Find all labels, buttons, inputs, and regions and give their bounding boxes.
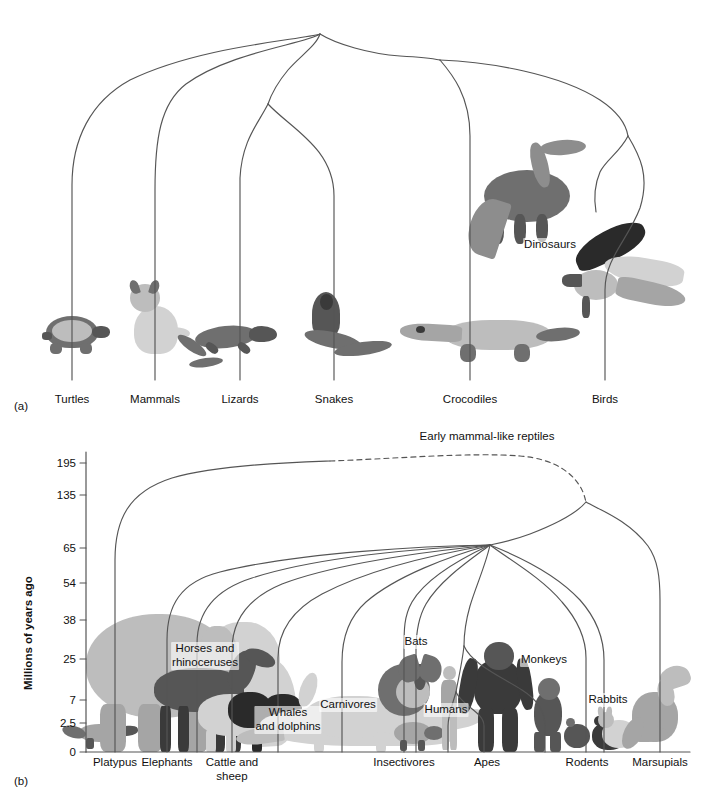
tip-label-cattle-sheep: Cattle and sheep xyxy=(206,755,258,783)
tip-label-marsupials: Marsupials xyxy=(632,755,688,769)
y-tick-label: 2.5 xyxy=(38,717,76,729)
tip-label-birds: Birds xyxy=(592,392,618,406)
branch-rabbits xyxy=(490,545,586,752)
inline-label-monkeys: Monkeys xyxy=(520,653,568,667)
branch-snakes xyxy=(268,104,334,380)
branch-turtles xyxy=(72,34,320,380)
inline-label-carnivores: Carnivores xyxy=(319,698,377,712)
branch-rodents xyxy=(490,545,604,752)
y-tick-label: 7 xyxy=(38,694,76,706)
y-tick-label: 0 xyxy=(38,746,76,758)
y-tick-label: 54 xyxy=(38,577,76,589)
branch-horses-rhinos xyxy=(197,545,490,752)
panel-tag-b: (b) xyxy=(14,775,28,787)
inline-label-humans: Humans xyxy=(424,703,469,717)
tip-label-platypus: Platypus xyxy=(93,755,137,769)
phylogeny-figure: (a) (b) Turtles Mammals Lizards Snakes C… xyxy=(0,0,701,802)
tip-label-mammals: Mammals xyxy=(130,392,180,406)
branch-primate-stem xyxy=(464,545,490,646)
branch-lizards xyxy=(240,104,268,380)
inline-label-bats: Bats xyxy=(403,635,428,649)
branch-dinosaurs xyxy=(595,136,628,212)
branch-apes xyxy=(456,692,484,752)
inline-label-whales-dolphins: Whales and dolphins xyxy=(254,706,321,734)
tip-label-lizards: Lizards xyxy=(221,392,258,406)
y-tick-label: 38 xyxy=(38,614,76,626)
tip-label-turtles: Turtles xyxy=(55,392,90,406)
branch-crocodiles xyxy=(440,60,470,380)
branch-mammals xyxy=(155,34,320,380)
tip-label-snakes: Snakes xyxy=(315,392,353,406)
branch-archosaur-stem xyxy=(320,34,440,60)
y-tick-label: 25 xyxy=(38,653,76,665)
branch-diapsid-stem xyxy=(268,34,320,104)
inline-label-rabbits: Rabbits xyxy=(588,693,629,707)
branch-ape-human-stem xyxy=(456,646,464,692)
inline-label-horses-rhinoceruses: Horses and rhinoceruses xyxy=(171,642,239,670)
branch-birds xyxy=(605,136,644,380)
tip-label-crocodiles: Crocodiles xyxy=(443,392,497,406)
tip-label-insectivores: Insectivores xyxy=(373,755,434,769)
y-tick-label: 135 xyxy=(38,489,76,501)
tip-label-elephants: Elephants xyxy=(141,755,192,769)
branch-dinobird-stem xyxy=(440,60,628,136)
inline-label-early-mammal-like-reptiles: Early mammal-like reptiles xyxy=(419,430,556,444)
branch-early-mammal-like-reptiles xyxy=(330,455,586,502)
tip-label-rodents: Rodents xyxy=(566,755,609,769)
y-tick-label: 65 xyxy=(38,542,76,554)
panel-tag-a: (a) xyxy=(14,400,28,412)
tip-label-apes: Apes xyxy=(474,755,500,769)
y-tick-label: 195 xyxy=(38,457,76,469)
branch-placental-stem xyxy=(490,502,586,545)
y-axis-title: Millions of years ago xyxy=(22,576,34,690)
branch-humans xyxy=(448,692,456,752)
inline-label-dinosaurs: Dinosaurs xyxy=(523,238,577,252)
